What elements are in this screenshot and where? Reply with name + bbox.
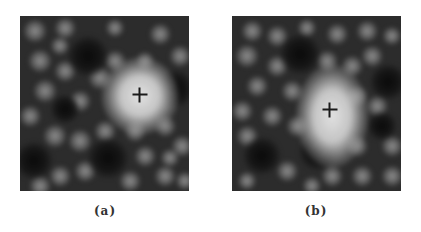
image-blob [237,171,256,190]
image-blob [381,165,401,187]
image-field-b [232,16,401,191]
image-blob [119,170,141,191]
stm-image-panel-a [20,16,189,191]
image-blob [382,26,401,45]
cross-marker-icon [323,103,338,118]
image-blob [43,124,67,148]
image-blob [361,45,383,67]
image-blob [232,100,253,122]
image-blob [88,138,129,179]
image-blob [302,176,321,191]
image-blob [368,112,397,141]
cross-marker-icon [133,88,148,103]
caption-b: (b) [305,204,328,218]
image-blob [326,23,348,45]
image-blob [175,171,189,190]
image-blob [351,165,373,187]
image-blob [68,36,109,77]
image-blob [370,64,401,100]
image-blob [280,34,321,75]
image-blob [169,45,189,67]
image-blob [261,105,283,127]
image-blob [134,145,156,167]
image-blob [50,36,69,55]
image-blob [51,95,80,124]
image-blob [49,165,71,187]
image-blob [149,23,171,45]
image-blob [356,20,378,42]
image-blob [20,105,41,127]
stm-image-panel-b [232,16,401,191]
image-blob [235,44,259,68]
image-blob [276,160,298,182]
image-field-a [20,16,189,191]
image-blob [241,20,263,42]
caption-a: (a) [94,204,116,218]
image-blob [20,142,53,180]
image-blob [246,75,268,97]
image-blob [160,148,179,167]
image-blob [105,18,124,37]
image-blob [154,165,176,187]
image-blob [28,49,52,73]
image-blob [23,19,47,43]
